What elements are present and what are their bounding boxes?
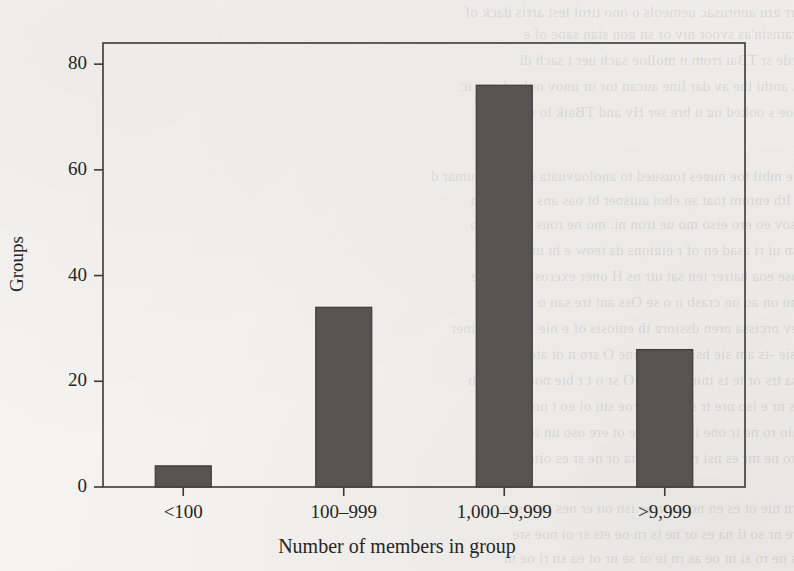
x-axis-title: Number of members in group bbox=[0, 535, 794, 558]
y-axis-title: Groups bbox=[6, 194, 28, 334]
x-tick-label: 100–999 bbox=[254, 501, 434, 523]
bar bbox=[476, 85, 532, 487]
bar-chart-figure: 020406080 <100100–9991,000–9,999>9,999 G… bbox=[0, 0, 794, 571]
y-tick-label: 20 bbox=[25, 369, 87, 391]
y-tick-label: 60 bbox=[25, 158, 87, 180]
bar bbox=[637, 350, 693, 487]
bar-series bbox=[155, 85, 693, 487]
plot-canvas bbox=[0, 0, 794, 571]
y-tick-label: 80 bbox=[25, 52, 87, 74]
bar bbox=[316, 307, 372, 487]
x-tick-label: 1,000–9,999 bbox=[414, 501, 594, 523]
x-tick-label: <100 bbox=[93, 501, 273, 523]
axis-ticks bbox=[94, 64, 665, 496]
bar bbox=[155, 466, 211, 487]
y-tick-label: 0 bbox=[25, 475, 87, 497]
x-tick-label: >9,999 bbox=[575, 501, 755, 523]
y-tick-label: 40 bbox=[25, 264, 87, 286]
